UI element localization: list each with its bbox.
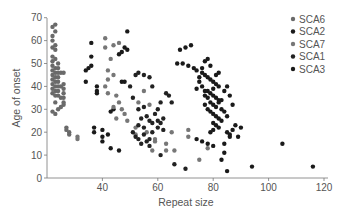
legend-marker — [291, 17, 295, 21]
x-tick-group: 406080100120 — [97, 178, 333, 193]
data-point — [200, 66, 204, 70]
data-point — [111, 73, 115, 77]
data-point — [203, 103, 207, 107]
y-tick-label: 50 — [31, 58, 43, 69]
data-point — [120, 50, 124, 54]
data-point — [103, 36, 107, 40]
data-point — [194, 87, 198, 91]
data-point — [217, 84, 221, 88]
data-point — [164, 142, 168, 146]
data-point — [95, 91, 99, 95]
data-point — [53, 112, 57, 116]
data-point — [59, 105, 63, 109]
legend-label: SCA1 — [299, 51, 326, 62]
data-point — [100, 135, 104, 139]
data-point — [89, 64, 93, 68]
legend-label: SCA6 — [299, 14, 326, 25]
data-point — [217, 125, 221, 129]
series-sca6 — [50, 22, 71, 136]
data-point — [122, 80, 126, 84]
data-point — [117, 100, 121, 104]
data-point — [117, 41, 121, 45]
data-point — [228, 93, 232, 97]
data-point — [53, 29, 57, 33]
data-point — [150, 84, 154, 88]
data-point — [170, 130, 174, 134]
legend: SCA6SCA2SCA7SCA1SCA3 — [291, 14, 326, 75]
y-tick-label: 60 — [31, 35, 43, 46]
data-point — [172, 148, 176, 152]
data-point — [142, 73, 146, 77]
data-point — [186, 128, 190, 132]
data-point — [142, 105, 146, 109]
data-point — [109, 146, 113, 150]
data-point — [50, 38, 54, 42]
data-point — [92, 130, 96, 134]
data-point — [225, 84, 229, 88]
data-point — [136, 123, 140, 127]
data-point — [103, 84, 107, 88]
data-point — [125, 119, 129, 123]
data-point — [200, 84, 204, 88]
data-point — [120, 107, 124, 111]
data-point — [230, 128, 234, 132]
legend-label: SCA2 — [299, 26, 326, 37]
data-point — [225, 114, 229, 118]
data-point — [109, 57, 113, 61]
y-tick-label: 30 — [31, 104, 43, 115]
data-point — [214, 105, 218, 109]
x-tick-label: 80 — [208, 182, 220, 193]
data-point — [222, 142, 226, 146]
data-point — [203, 93, 207, 97]
data-point — [56, 61, 60, 65]
data-point — [156, 125, 160, 129]
data-point — [56, 66, 60, 70]
data-point — [56, 75, 60, 79]
data-point — [95, 84, 99, 88]
data-point — [114, 116, 118, 120]
legend-label: SCA7 — [299, 39, 326, 50]
data-point — [106, 91, 110, 95]
data-point — [211, 87, 215, 91]
data-point — [145, 114, 149, 118]
data-point — [147, 144, 151, 148]
x-tick-label: 60 — [152, 182, 164, 193]
data-point — [139, 116, 143, 120]
legend-marker — [291, 29, 295, 33]
data-point — [106, 132, 110, 136]
data-point — [219, 98, 223, 102]
data-point — [147, 103, 151, 107]
data-point — [50, 34, 54, 38]
data-point — [167, 93, 171, 97]
data-point — [172, 162, 176, 166]
data-point — [153, 139, 157, 143]
data-point — [142, 125, 146, 129]
y-tick-label: 40 — [31, 81, 43, 92]
data-point — [122, 112, 126, 116]
data-point — [311, 164, 315, 168]
data-point — [233, 123, 237, 127]
data-point — [117, 148, 121, 152]
data-point — [186, 135, 190, 139]
data-point — [236, 135, 240, 139]
data-point — [222, 109, 226, 113]
y-axis: Age of onset 010203040506070 — [10, 12, 47, 183]
data-point — [150, 148, 154, 152]
data-point — [67, 132, 71, 136]
data-point — [208, 64, 212, 68]
legend-marker — [291, 54, 295, 58]
data-point — [211, 128, 215, 132]
data-point — [92, 125, 96, 129]
data-point — [150, 121, 154, 125]
data-point — [111, 105, 115, 109]
data-point — [222, 151, 226, 155]
data-point — [158, 121, 162, 125]
data-point — [194, 137, 198, 141]
data-point — [170, 100, 174, 104]
data-point — [161, 128, 165, 132]
data-point — [53, 100, 57, 104]
y-tick-label: 10 — [31, 150, 43, 161]
data-point — [194, 68, 198, 72]
series-sca1 — [128, 71, 188, 172]
data-point — [125, 48, 129, 52]
